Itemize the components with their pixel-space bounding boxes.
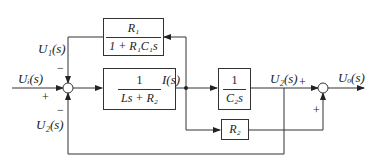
sign-sum2-bottom: +: [313, 104, 320, 116]
signal-u2-feedback: U₂(s): [36, 118, 64, 131]
summing-junction-1: [63, 83, 73, 93]
signal-input: Uᵢ(s): [18, 72, 43, 85]
inductor-block-denominator: Ls + R₂: [118, 89, 161, 106]
capacitor-transfer-block: 1 C₂s: [218, 68, 251, 110]
resistor-block: R₂: [221, 119, 249, 140]
sign-sum1-top: −: [57, 62, 64, 74]
signal-u1-feedback: U₁(s): [38, 42, 66, 55]
inductor-block-numerator: 1: [134, 73, 146, 89]
resistor-block-label: R₂: [229, 122, 241, 137]
capacitor-block-denominator: C₂s: [223, 89, 246, 106]
summing-junction-2: [318, 83, 328, 93]
feedback-block-numerator: R₁: [125, 21, 143, 37]
block-diagram: R₁ 1 + R₁C₁s 1 Ls + R₂ 1 C₂s R₂ U₁(s) Uᵢ…: [0, 0, 378, 165]
branch-point: [184, 86, 188, 90]
signal-output: Uₒ(s): [338, 71, 365, 84]
sign-sum2-left: +: [299, 76, 306, 88]
signal-current: I(s): [162, 73, 180, 86]
signal-u2-output: U₂(s): [270, 72, 298, 85]
sign-sum1-bottom: −: [57, 104, 64, 116]
capacitor-block-numerator: 1: [229, 73, 241, 89]
diagram-wires: [0, 0, 378, 165]
feedback-block-denominator: 1 + R₁C₁s: [106, 37, 160, 54]
feedback-transfer-block: R₁ 1 + R₁C₁s: [103, 18, 164, 56]
sign-sum1-left: +: [42, 91, 49, 103]
